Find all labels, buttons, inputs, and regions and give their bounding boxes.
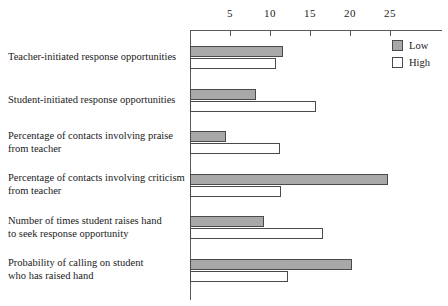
chart-legend: Low High xyxy=(392,38,448,72)
bar-high[interactable] xyxy=(190,143,280,154)
category-label-line: Teacher-initiated response opportunities xyxy=(8,50,188,63)
category-label-line: Probability of calling on student xyxy=(8,256,188,269)
category-label-line: Percentage of contacts involving critici… xyxy=(8,171,188,184)
x-axis-tick-label: 25 xyxy=(378,8,402,19)
bar-high[interactable] xyxy=(190,271,288,282)
category-label-line: who has raised hand xyxy=(8,269,188,282)
category-label-line: from teacher xyxy=(8,184,188,197)
x-axis-tick-label: 10 xyxy=(258,8,282,19)
bar-low[interactable] xyxy=(190,46,283,57)
x-axis-tick-label: 5 xyxy=(218,8,242,19)
bar-group xyxy=(190,89,448,112)
category-label-line: to seek response opportunity xyxy=(8,227,188,240)
bar-low[interactable] xyxy=(190,89,256,100)
x-axis-tick-label: 15 xyxy=(298,8,322,19)
legend-label-low: Low xyxy=(409,40,428,51)
legend-swatch-low-icon xyxy=(392,40,403,51)
bar-low[interactable] xyxy=(190,174,388,185)
category-label: Teacher-initiated response opportunities xyxy=(8,50,188,63)
category-label-line: Number of times student raises hand xyxy=(8,214,188,227)
bar-group xyxy=(190,259,448,282)
bar-group xyxy=(190,174,448,197)
category-labels: Teacher-initiated response opportunities… xyxy=(8,0,186,306)
legend-label-high: High xyxy=(409,57,430,68)
bar-low[interactable] xyxy=(190,259,352,270)
category-label: Number of times student raises handto se… xyxy=(8,214,188,240)
legend-swatch-high-icon xyxy=(392,57,403,68)
legend-item-low[interactable]: Low xyxy=(392,38,448,53)
category-label: Student-initiated response opportunities xyxy=(8,93,188,106)
bar-low[interactable] xyxy=(190,216,264,227)
category-label: Probability of calling on studentwho has… xyxy=(8,256,188,282)
bar-high[interactable] xyxy=(190,186,281,197)
category-label-line: Percentage of contacts involving praise xyxy=(8,129,188,142)
legend-item-high[interactable]: High xyxy=(392,55,448,70)
category-label: Percentage of contacts involving critici… xyxy=(8,171,188,197)
bar-group xyxy=(190,216,448,239)
bar-group xyxy=(190,131,448,154)
bar-low[interactable] xyxy=(190,131,226,142)
category-label-line: from teacher xyxy=(8,142,188,155)
bar-high[interactable] xyxy=(190,58,276,69)
bar-chart: 510152025 Teacher-initiated response opp… xyxy=(0,0,448,306)
category-label: Percentage of contacts involving praisef… xyxy=(8,129,188,155)
bar-high[interactable] xyxy=(190,101,316,112)
category-label-line: Student-initiated response opportunities xyxy=(8,93,188,106)
x-axis-tick-label: 20 xyxy=(338,8,362,19)
bar-high[interactable] xyxy=(190,228,323,239)
